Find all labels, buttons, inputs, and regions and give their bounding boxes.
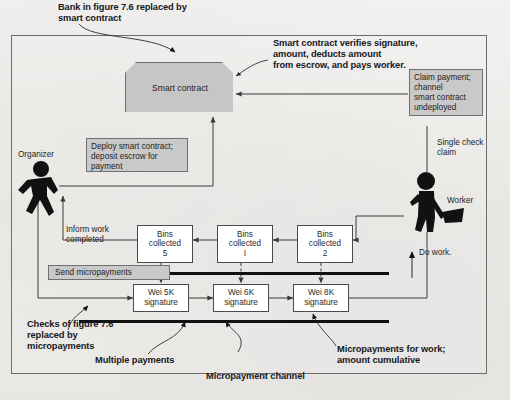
callout-bank-line-1: Bank in figure 7.6 replaced by xyxy=(58,2,187,13)
smart-contract-node[interactable]: Smart contract xyxy=(125,62,235,114)
callout-multiple-payments: Multiple payments xyxy=(95,355,174,366)
organizer-icon xyxy=(14,160,70,226)
single-check-line-2: claim xyxy=(437,148,483,158)
callout-checks-line-2: replaced by xyxy=(27,330,113,341)
callout-checks-replaced: Checks of figure 7.6 replaced by micropa… xyxy=(27,319,113,353)
claim-note-line-4: undeployed xyxy=(414,103,478,113)
bins-collected-1[interactable]: Bins collected I xyxy=(217,225,273,263)
bins-2-line-1: Bins xyxy=(309,230,341,240)
callout-smart-contract-verifies: Smart contract verifies signature, amoun… xyxy=(273,38,417,72)
callout-micropayment-channel: Micropayment channel xyxy=(206,371,305,382)
inform-work-label: Inform work completed xyxy=(66,225,109,245)
claim-note-line-3: smart contract xyxy=(414,93,478,103)
wei-5k-line-1: Wei 5K xyxy=(144,288,178,298)
bins-5-line-2: collected xyxy=(149,239,181,249)
worker-icon xyxy=(404,172,468,238)
wei-6k-line-2: signature xyxy=(224,298,258,308)
bins-5-line-3: 5 xyxy=(149,249,181,259)
callout-micropayments-for-work: Micropayments for work; amount cumulativ… xyxy=(337,344,445,366)
figure-canvas: Smart contract Deploy smart contract; de… xyxy=(0,0,510,400)
single-check-claim-label: Single check claim xyxy=(437,138,483,158)
inform-work-line-1: Inform work xyxy=(66,225,109,235)
micropayment-bar-bottom xyxy=(79,320,389,323)
deploy-note-line-2: deposit escrow for xyxy=(91,152,183,162)
bins-1-line-3: I xyxy=(229,249,261,259)
inform-work-line-2: completed xyxy=(66,235,109,245)
bins-5-line-1: Bins xyxy=(149,230,181,240)
organizer-label: Organizer xyxy=(18,150,54,160)
bins-1-line-2: collected xyxy=(229,239,261,249)
callout-verify-line-2: amount, deducts amount xyxy=(273,49,417,60)
callout-checks-line-1: Checks of figure 7.6 xyxy=(27,319,113,330)
wei-6k-signature[interactable]: Wei 6K signature xyxy=(213,284,269,312)
wei-6k-line-1: Wei 6K xyxy=(224,288,258,298)
callout-verify-line-3: from escrow, and pays worker. xyxy=(273,60,417,71)
wei-5k-line-2: signature xyxy=(144,298,178,308)
callout-bank-line-2: smart contract xyxy=(58,13,187,24)
callout-micro-work-line-1: Micropayments for work; xyxy=(337,344,445,355)
deploy-smart-contract-note[interactable]: Deploy smart contract; deposit escrow fo… xyxy=(86,138,188,172)
bins-2-line-3: 2 xyxy=(309,249,341,259)
send-micropayments-label[interactable]: Send micropayments xyxy=(48,265,170,280)
claim-note-line-1: Claim payment; xyxy=(414,73,478,83)
claim-note-line-2: channel xyxy=(414,83,478,93)
deploy-note-line-3: payment xyxy=(91,162,183,172)
smart-contract-label: Smart contract xyxy=(152,83,208,93)
callout-checks-line-3: micropayments xyxy=(27,341,113,352)
wei-8k-line-2: signature xyxy=(304,298,338,308)
claim-payment-note[interactable]: Claim payment; channel smart contract un… xyxy=(409,69,483,116)
callout-bank-replaced: Bank in figure 7.6 replaced by smart con… xyxy=(58,2,187,24)
wei-5k-signature[interactable]: Wei 5K signature xyxy=(133,284,189,312)
callout-verify-line-1: Smart contract verifies signature, xyxy=(273,38,417,49)
deploy-note-line-1: Deploy smart contract; xyxy=(91,142,183,152)
single-check-line-1: Single check xyxy=(437,138,483,148)
callout-micro-work-line-2: amount cumulative xyxy=(337,355,445,366)
wei-8k-line-1: Wei 8K xyxy=(304,288,338,298)
bins-collected-2[interactable]: Bins collected 2 xyxy=(297,225,353,263)
bins-1-line-1: Bins xyxy=(229,230,261,240)
do-work-label: Do work. xyxy=(419,248,451,258)
wei-8k-signature[interactable]: Wei 8K signature xyxy=(293,284,349,312)
bins-collected-5[interactable]: Bins collected 5 xyxy=(137,225,193,263)
send-micropayments-text: Send micropayments xyxy=(55,268,132,278)
bins-2-line-2: collected xyxy=(309,239,341,249)
